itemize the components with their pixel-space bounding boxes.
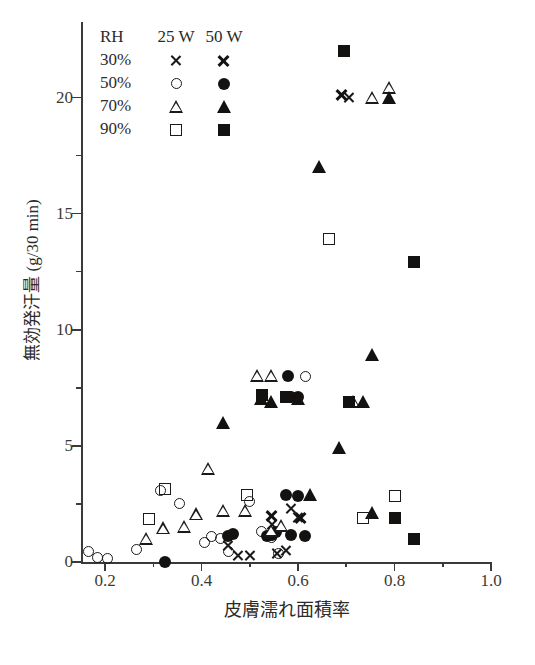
data-point-open-circle xyxy=(131,544,142,555)
y-axis-title: 無効発汗量 (g/30 min) xyxy=(23,155,43,405)
data-point-filled-triangle xyxy=(303,488,317,501)
data-point-filled-circle xyxy=(299,530,311,542)
data-point-open-triangle xyxy=(274,519,288,532)
legend-rh-label-3: 90% xyxy=(100,118,152,141)
data-point-filled-circle xyxy=(159,556,171,568)
data-point-filled-square xyxy=(280,391,292,403)
x-tick-mark xyxy=(201,562,203,571)
open-cross-icon xyxy=(166,52,186,70)
legend-body: 30%50%70%90% xyxy=(100,49,248,141)
data-point-open-square xyxy=(159,483,171,495)
filled-cross-icon xyxy=(214,52,234,70)
filled-circle-icon xyxy=(214,75,234,93)
data-point-open-circle xyxy=(102,553,113,564)
filled-cross-glyph xyxy=(217,54,231,68)
filled-triangle-glyph xyxy=(217,100,231,113)
data-point-filled-square xyxy=(408,256,420,268)
legend-row: 30% xyxy=(100,49,248,72)
open-triangle-icon xyxy=(166,98,186,116)
open-circle-glyph xyxy=(171,78,182,89)
data-point-open-circle xyxy=(223,546,234,557)
filled-square-glyph xyxy=(218,124,230,136)
data-point-filled-triangle xyxy=(216,416,230,429)
y-tick-mark xyxy=(72,97,81,99)
y-minor-tick xyxy=(76,387,81,389)
data-point-open-square xyxy=(389,490,401,502)
data-point-open-square xyxy=(143,513,155,525)
y-minor-tick xyxy=(76,155,81,157)
y-tick-label: 20 xyxy=(17,89,73,106)
x-minor-tick xyxy=(249,562,251,567)
x-tick-label: 0.2 xyxy=(83,572,127,589)
open-square-glyph xyxy=(170,124,182,136)
data-point-open-square xyxy=(323,233,335,245)
data-point-filled-square xyxy=(408,533,420,545)
data-point-open-triangle xyxy=(139,532,153,545)
data-point-open-circle xyxy=(174,498,185,509)
filled-square-icon xyxy=(214,121,234,139)
legend-symbol-50w-0 xyxy=(200,49,248,72)
data-point-filled-triangle xyxy=(382,91,396,104)
data-point-open-cross xyxy=(243,549,256,562)
data-point-filled-cross xyxy=(293,511,307,525)
data-point-open-circle xyxy=(300,371,311,382)
filled-triangle-icon xyxy=(214,98,234,116)
data-point-open-triangle xyxy=(189,507,203,520)
y-tick-label: 5 xyxy=(17,437,73,454)
data-point-filled-triangle xyxy=(332,441,346,454)
y-axis-line xyxy=(81,22,83,563)
data-point-filled-circle xyxy=(227,528,239,540)
filled-circle-glyph xyxy=(218,78,230,90)
y-tick-mark xyxy=(72,213,81,215)
data-point-open-triangle xyxy=(238,504,252,517)
scatter-chart-figure: 05101520 0.20.40.60.81.0 無効発汗量 (g/30 min… xyxy=(0,0,535,665)
y-tick-mark xyxy=(72,329,81,331)
data-point-filled-square xyxy=(338,45,350,57)
data-point-open-triangle xyxy=(156,521,170,534)
x-minor-tick xyxy=(345,562,347,567)
data-point-open-triangle xyxy=(365,91,379,104)
x-axis-title: 皮膚濡れ面積率 xyxy=(81,600,492,620)
open-triangle-glyph xyxy=(169,100,183,113)
x-tick-mark xyxy=(394,562,396,571)
data-point-filled-cross xyxy=(334,88,348,102)
data-point-filled-triangle xyxy=(291,392,305,405)
legend-header-50w: 50 W xyxy=(200,26,248,49)
legend-rh-label-2: 70% xyxy=(100,95,152,118)
x-tick-label: 1.0 xyxy=(469,572,513,589)
data-point-open-square xyxy=(357,512,369,524)
open-circle-icon xyxy=(166,75,186,93)
data-point-filled-circle xyxy=(282,370,294,382)
y-tick-mark xyxy=(72,561,81,563)
legend-symbol-25w-2 xyxy=(152,95,200,118)
y-tick-label: 0 xyxy=(17,553,73,570)
x-axis-line xyxy=(81,562,492,564)
open-square-icon xyxy=(166,121,186,139)
x-tick-label: 0.8 xyxy=(373,572,417,589)
x-tick-label: 0.6 xyxy=(276,572,320,589)
data-point-open-square xyxy=(241,489,253,501)
data-point-open-triangle xyxy=(201,462,215,475)
y-tick-mark xyxy=(72,445,81,447)
legend-table: RH 25 W 50 W 30%50%70%90% xyxy=(100,26,248,141)
data-point-filled-square xyxy=(389,512,401,524)
data-point-filled-triangle xyxy=(365,348,379,361)
data-point-filled-circle xyxy=(280,489,292,501)
legend-row: 70% xyxy=(100,95,248,118)
legend-symbol-50w-2 xyxy=(200,95,248,118)
x-tick-label: 0.4 xyxy=(180,572,224,589)
legend-rh-label-1: 50% xyxy=(100,72,152,95)
data-point-filled-square xyxy=(343,396,355,408)
x-minor-tick xyxy=(153,562,155,567)
data-point-filled-triangle xyxy=(356,395,370,408)
legend-symbol-25w-0 xyxy=(152,49,200,72)
data-point-open-triangle xyxy=(264,369,278,382)
y-minor-tick xyxy=(76,503,81,505)
legend-symbol-50w-3 xyxy=(200,118,248,141)
legend-symbol-25w-3 xyxy=(152,118,200,141)
legend-rh-label-0: 30% xyxy=(100,49,152,72)
legend-row: 50% xyxy=(100,72,248,95)
y-minor-tick xyxy=(76,271,81,273)
legend-header-row: RH 25 W 50 W xyxy=(100,26,248,49)
data-point-open-triangle xyxy=(250,369,264,382)
